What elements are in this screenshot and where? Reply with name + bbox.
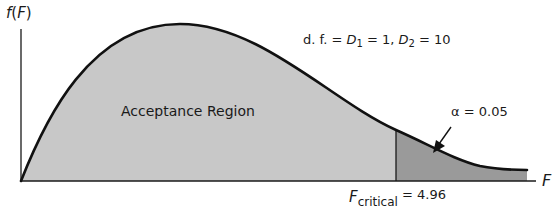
f-critical-label: Fcritical = 4.96 (349, 187, 446, 209)
y-axis-label-close: ) (26, 4, 32, 22)
df-prefix: d. f. = (303, 32, 346, 47)
acceptance-region-label: Acceptance Region (121, 103, 255, 119)
df-mid: = 1, (363, 32, 399, 47)
df-d2-symbol: D (399, 32, 409, 47)
x-axis-label: F (542, 171, 551, 190)
f-critical-symbol: F (349, 188, 358, 206)
y-axis-label-F: F (17, 4, 26, 22)
degrees-of-freedom-label: d. f. = D1 = 1, D2 = 10 (303, 32, 451, 49)
f-critical-value: = 4.96 (398, 187, 446, 202)
y-axis-label: f(F) (6, 4, 32, 22)
alpha-label: α = 0.05 (451, 104, 508, 119)
alpha-arrow-icon (433, 127, 451, 153)
f-critical-sub: critical (358, 195, 398, 209)
df-d1-symbol: D (346, 32, 356, 47)
df-end: = 10 (415, 32, 451, 47)
